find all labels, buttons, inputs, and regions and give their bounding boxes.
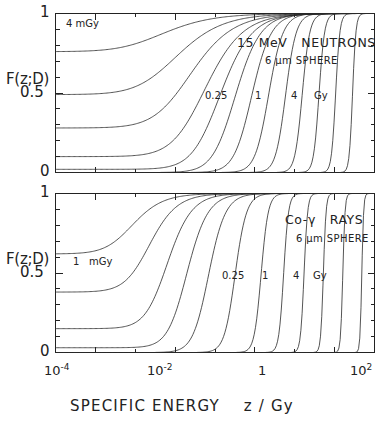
x-tick-1e2-mantissa: 10 [350, 363, 367, 378]
panel-subtitle-neutrons: 6 µm SPHERE [265, 55, 338, 66]
x-tick-1: 1 [258, 362, 266, 378]
dose-label-neutrons-4: 4 [291, 90, 297, 101]
dose-label-gamma-4: 4 [293, 270, 299, 281]
y-tick-bottom-05: 0.5 [20, 263, 44, 281]
dose-label-neutrons-025: 0.25 [205, 90, 227, 101]
dose-label-neutrons-1: 1 [255, 90, 261, 101]
dose-label-gamma-1: 1 [262, 270, 268, 281]
x-tick-1e2-exponent: 2 [367, 362, 373, 372]
x-tick-1e-4: 10-4 [44, 362, 70, 378]
x-tick-1-mantissa: 1 [258, 363, 266, 378]
y-tick-top-05: 0.5 [20, 83, 44, 101]
x-tick-1e-4-mantissa: 10 [44, 363, 61, 378]
x-tick-1e2: 102 [350, 362, 372, 378]
curve-unit-gamma-first: mGy [89, 256, 112, 267]
x-tick-1e-2-mantissa: 10 [147, 363, 164, 378]
x-tick-1e-4-exponent: -4 [61, 362, 70, 372]
dose-label-gamma-025: 0.25 [222, 270, 244, 281]
microdosimetry-figure: F(z;D) 1 0.5 0 F(z;D) 1 0.5 0 4 mGy 15 M… [0, 0, 386, 431]
x-tick-1e-2-exponent: -2 [164, 362, 173, 372]
curve-15-mev-neutrons-2 [56, 14, 375, 128]
panel-subtitle-gamma: 6 µm SPHERE [296, 233, 369, 244]
curve-label-gamma-first: 1 [73, 256, 79, 267]
panel-title-neutrons: 15 MeV NEUTRONS [237, 35, 376, 50]
curve-label-neutrons-first: 4 mGy [66, 18, 99, 29]
y-tick-top-1: 1 [40, 3, 50, 21]
x-axis-label: SPECIFIC ENERGY z / Gy [70, 397, 294, 415]
y-tick-bottom-0: 0 [40, 342, 50, 360]
x-tick-1e-2: 10-2 [147, 362, 173, 378]
panel-title-gamma: Co-γ RAYS [285, 212, 363, 227]
dose-unit-neutrons-gy: Gy [314, 90, 328, 101]
y-tick-top-0: 0 [40, 162, 50, 180]
y-tick-bottom-1: 1 [40, 183, 50, 201]
dose-unit-gamma-gy: Gy [313, 270, 327, 281]
